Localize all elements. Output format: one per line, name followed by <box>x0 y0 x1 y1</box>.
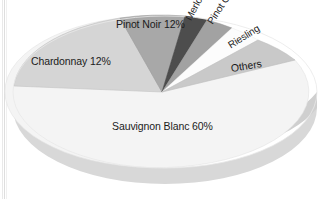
pie-label-chardonnay: Chardonnay 12% <box>31 55 111 67</box>
pie-label-pinot-noir: Pinot Noir 12% <box>116 18 185 30</box>
pie-slices <box>5 15 309 168</box>
pie-chart-figure: Chardonnay 12% Pinot Noir 12% Merlot Pin… <box>0 0 333 199</box>
pie-label-sauvignon-blanc: Sauvignon Blanc 60% <box>112 120 213 132</box>
